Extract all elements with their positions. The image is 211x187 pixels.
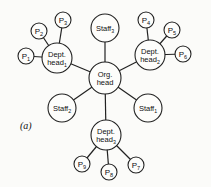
- node-p2: P2: [31, 23, 47, 39]
- node-p9: P9: [74, 156, 90, 172]
- org-chart-diagram: Org.headDept.head1Dept.head2Dept.head3St…: [0, 0, 211, 187]
- node-dh2: Dept.head2: [135, 40, 165, 70]
- node-p8: P8: [101, 164, 117, 180]
- node-p4: P4: [138, 12, 154, 28]
- node-s1: Staff1: [134, 94, 162, 122]
- node-dh3: Dept.head3: [91, 120, 121, 150]
- figure-caption: (a): [20, 120, 32, 132]
- node-p3: P3: [55, 12, 71, 28]
- node-s2: Staff2: [48, 94, 76, 122]
- node-p7: P7: [128, 157, 144, 173]
- node-label: head: [97, 78, 114, 87]
- node-s3: Staff3: [91, 14, 119, 42]
- node-p1: P1: [18, 48, 34, 64]
- node-p5: P5: [164, 22, 180, 38]
- node-dh1: Dept.head1: [42, 43, 72, 73]
- node-p6: P6: [175, 46, 191, 62]
- node-org: Org.head: [89, 62, 121, 94]
